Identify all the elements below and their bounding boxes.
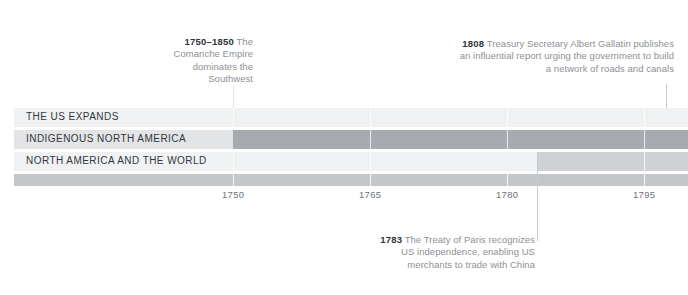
tick-notch (507, 108, 508, 127)
annotation-gallatin-year: 1808 (462, 38, 484, 49)
tick-notch (507, 130, 508, 149)
axis-tick-label-1780: 1780 (496, 189, 518, 200)
leader-line-treaty-of-paris (537, 155, 538, 241)
annotation-treaty-of-paris: 1783 The Treaty of Paris recognizes US i… (372, 234, 535, 271)
axis-tick-notch (370, 174, 371, 186)
row-label-indigenous-north-america: INDIGENOUS NORTH AMERICA (26, 133, 186, 144)
annotation-comanche-year: 1750–1850 (185, 36, 234, 47)
tick-notch (370, 152, 371, 171)
timeline-figure: 1750–1850 The Comanche Empire dominates … (0, 0, 688, 295)
timeline-row-the-us-expands: THE US EXPANDS (0, 108, 688, 127)
row-label-the-us-expands: THE US EXPANDS (26, 111, 119, 122)
annotation-gallatin-text: Treasury Secretary Albert Gallatin publi… (460, 38, 674, 74)
tick-notch (644, 152, 645, 171)
tick-notch (370, 108, 371, 127)
tick-notch (644, 108, 645, 127)
tick-notch (644, 130, 645, 149)
axis-tick-notch (644, 174, 645, 186)
axis-tick-label-1765: 1765 (359, 189, 381, 200)
axis-tick-label-1750: 1750 (222, 189, 244, 200)
axis-tick-notch (507, 174, 508, 186)
timeline-row-indigenous-north-america: INDIGENOUS NORTH AMERICA (0, 130, 688, 149)
axis-tick-notch (233, 174, 234, 186)
tick-notch (233, 152, 234, 171)
tick-notch (370, 130, 371, 149)
annotation-gallatin: 1808 Treasury Secretary Albert Gallatin … (452, 38, 674, 75)
axis-tick-label-1795: 1795 (633, 189, 655, 200)
annotation-treaty-of-paris-text: The Treaty of Paris recognizes US indepe… (401, 234, 535, 270)
timeline-axis (14, 174, 688, 186)
bar-segment (233, 130, 688, 149)
annotation-treaty-of-paris-year: 1783 (380, 234, 402, 245)
row-label-north-america-and-the-world: NORTH AMERICA AND THE WORLD (26, 155, 207, 166)
annotation-comanche: 1750–1850 The Comanche Empire dominates … (150, 36, 253, 86)
tick-notch (233, 108, 234, 127)
bar-segment (537, 152, 688, 171)
timeline-row-north-america-and-the-world: NORTH AMERICA AND THE WORLD (0, 152, 688, 171)
